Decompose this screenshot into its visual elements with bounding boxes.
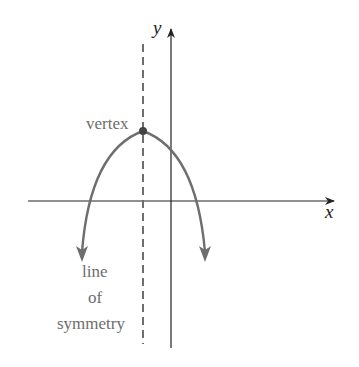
symmetry-label-line3: symmetry	[57, 315, 125, 333]
vertex-point	[139, 127, 147, 135]
vertex-label: vertex	[86, 115, 128, 133]
symmetry-label-line2: of	[88, 289, 102, 307]
x-axis-label: x	[325, 201, 333, 223]
parabola-diagram: y x vertex line of symmetry	[0, 0, 359, 367]
symmetry-label-line1: line	[82, 263, 108, 281]
diagram-canvas	[0, 0, 359, 367]
parabola-curve	[82, 131, 143, 252]
parabola-curve-right	[143, 131, 205, 252]
y-axis-label: y	[153, 17, 161, 39]
